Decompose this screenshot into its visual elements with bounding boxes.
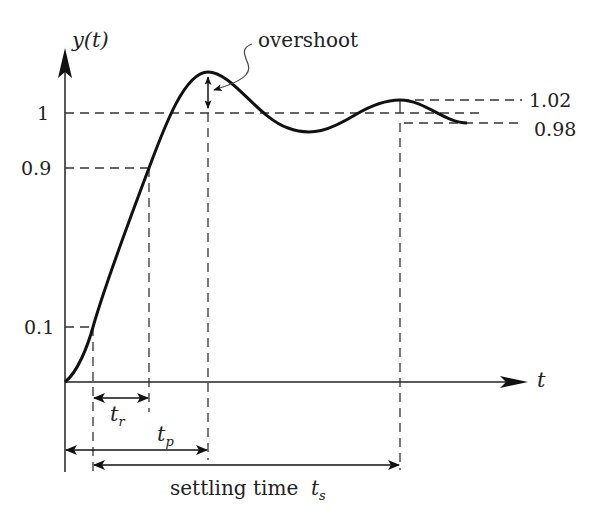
rise-time-label: tr xyxy=(110,404,125,428)
overshoot-label: overshoot xyxy=(258,30,358,50)
tick-label-1: 1 xyxy=(37,104,49,123)
tick-label-0.98: 0.98 xyxy=(534,120,576,139)
settling-time-label: settling time ts xyxy=(170,478,326,502)
reference-lines xyxy=(65,100,522,472)
t-axis xyxy=(65,376,528,388)
tick-label-0.9: 0.9 xyxy=(21,159,51,178)
peak-time-label: tp xyxy=(157,424,174,448)
tick-label-1.02: 1.02 xyxy=(529,91,571,110)
step-response-diagram xyxy=(0,0,593,519)
tick-label-0.1: 0.1 xyxy=(24,318,54,337)
response-curve xyxy=(65,72,467,382)
overshoot-leader-icon xyxy=(214,44,252,90)
y-axis xyxy=(58,48,72,472)
t-axis-label: t xyxy=(537,370,545,391)
y-axis-label: y(t) xyxy=(72,30,109,51)
